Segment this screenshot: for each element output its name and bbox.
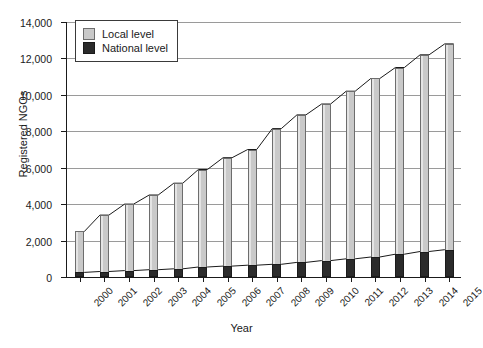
x-axis-tick <box>178 277 179 282</box>
y-axis-tick-label: 0 <box>46 272 52 284</box>
x-axis-tick-label-2014: 2014 <box>436 285 460 309</box>
x-axis-tick <box>449 277 450 282</box>
bar-local-2006[interactable] <box>223 158 232 277</box>
x-axis-title: Year <box>0 322 483 334</box>
bar-local-2011[interactable] <box>346 91 355 277</box>
x-axis-tick <box>400 277 401 282</box>
legend-label-national: National level <box>102 42 168 54</box>
bar-local-2008[interactable] <box>272 129 281 277</box>
bar-national-2002[interactable] <box>125 271 134 277</box>
bar-local-2001[interactable] <box>100 215 109 277</box>
legend-swatch-national-icon <box>83 42 95 54</box>
x-axis-tick <box>252 277 253 282</box>
bar-local-2009[interactable] <box>297 115 306 277</box>
bar-local-2012[interactable] <box>371 78 380 277</box>
y-axis-tick: 0 <box>61 277 67 278</box>
bar-national-2011[interactable] <box>346 259 355 277</box>
bar-local-2010[interactable] <box>322 104 331 277</box>
x-axis-tick <box>326 277 327 282</box>
y-axis-tick-label: 4,000 <box>26 199 52 211</box>
x-axis-tick <box>203 277 204 282</box>
x-axis-tick <box>154 277 155 282</box>
x-axis-tick-label-2011: 2011 <box>362 285 385 308</box>
bar-national-2005[interactable] <box>198 267 207 277</box>
bar-national-2015[interactable] <box>445 250 454 277</box>
x-axis-tick <box>129 277 130 282</box>
bar-local-2013[interactable] <box>395 68 404 277</box>
y-axis-tick-label: 8,000 <box>26 126 52 138</box>
bar-local-2007[interactable] <box>248 150 257 278</box>
chart-legend: Local level National level <box>75 20 178 62</box>
bar-local-2000[interactable] <box>75 231 84 277</box>
y-axis-tick-label: 14,000 <box>20 17 52 29</box>
bar-national-2001[interactable] <box>100 272 109 277</box>
x-axis-tick-label-2002: 2002 <box>141 285 165 309</box>
bar-national-2013[interactable] <box>395 254 404 277</box>
legend-item-national: National level <box>83 42 168 54</box>
y-axis-tick-label: 10,000 <box>20 90 52 102</box>
bar-national-2000[interactable] <box>75 272 84 277</box>
bar-national-2007[interactable] <box>248 265 257 277</box>
bar-national-2004[interactable] <box>174 269 183 277</box>
bar-local-2003[interactable] <box>149 195 158 277</box>
x-axis-tick <box>104 277 105 282</box>
x-axis-tick-label-2008: 2008 <box>288 285 312 309</box>
bar-national-2012[interactable] <box>371 257 380 277</box>
bar-national-2010[interactable] <box>322 261 331 277</box>
bar-local-2014[interactable] <box>420 55 429 277</box>
x-axis-tick-label-2001: 2001 <box>116 285 140 309</box>
x-axis-tick <box>375 277 376 282</box>
bar-national-2008[interactable] <box>272 264 281 277</box>
y-axis-tick-label: 12,000 <box>20 53 52 65</box>
bar-local-2015[interactable] <box>445 44 454 277</box>
bar-national-2009[interactable] <box>297 262 306 277</box>
legend-label-local: Local level <box>102 28 154 40</box>
x-axis-tick-label-2013: 2013 <box>411 285 435 309</box>
legend-swatch-local-icon <box>83 28 95 40</box>
bar-national-2014[interactable] <box>420 252 429 278</box>
bar-local-2004[interactable] <box>174 183 183 277</box>
x-axis-tick-label-2012: 2012 <box>387 285 411 309</box>
x-axis-tick-label-2004: 2004 <box>190 285 214 309</box>
x-axis-tick-label-2000: 2000 <box>91 285 115 309</box>
bar-local-2005[interactable] <box>198 170 207 277</box>
x-axis-tick <box>425 277 426 282</box>
bar-national-2006[interactable] <box>223 266 232 277</box>
x-axis-tick-label-2003: 2003 <box>165 285 189 309</box>
x-axis-tick <box>301 277 302 282</box>
x-axis-tick-label-2009: 2009 <box>313 285 337 309</box>
x-axis-tick-label-2005: 2005 <box>214 285 238 309</box>
x-axis-tick <box>80 277 81 282</box>
bar-national-2003[interactable] <box>149 270 158 277</box>
x-axis-tick <box>228 277 229 282</box>
chart-container: Registered NGOs Year 02,0004,0006,0008,0… <box>0 0 483 348</box>
x-axis-tick <box>277 277 278 282</box>
x-axis-tick-label-2006: 2006 <box>239 285 263 309</box>
y-axis-tick-label: 2,000 <box>26 236 52 248</box>
x-axis-tick-label-2010: 2010 <box>338 285 362 309</box>
x-axis-tick-label-2015: 2015 <box>461 285 483 309</box>
y-axis-tick-label: 6,000 <box>26 163 52 175</box>
legend-item-local: Local level <box>83 28 168 40</box>
x-axis-tick <box>351 277 352 282</box>
bar-local-2002[interactable] <box>125 204 134 277</box>
x-axis-tick-label-2007: 2007 <box>264 285 288 309</box>
